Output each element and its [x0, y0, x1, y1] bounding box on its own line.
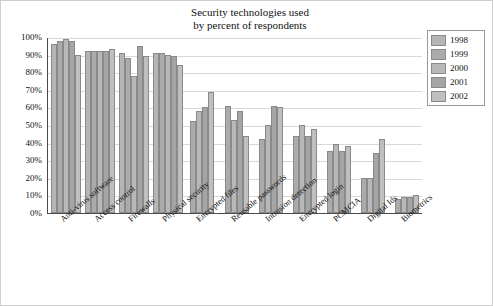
legend-swatch-icon [431, 49, 446, 60]
y-axis-tick-label: 20% [8, 174, 42, 183]
bar-2002-0 [75, 55, 81, 213]
legend-swatch-icon [431, 91, 446, 102]
x-axis-category-labels: Anti-virus softwareAccess controlFirewal… [47, 216, 422, 302]
y-axis-tick-label: 40% [8, 139, 42, 148]
bar-group [153, 38, 183, 213]
y-axis-tick-label: 70% [8, 86, 42, 95]
legend-item: 1999 [431, 47, 481, 61]
bar-2002-6 [277, 107, 283, 213]
bar-2002-1 [109, 49, 115, 213]
y-axis-tick-label: 50% [8, 121, 42, 130]
y-axis-tick-label: 30% [8, 156, 42, 165]
bar-group [119, 38, 149, 213]
legend-label: 2000 [450, 64, 468, 73]
legend-item: 2000 [431, 61, 481, 75]
bar-2002-2 [143, 56, 149, 213]
chart-figure: Security technologies used by percent of… [0, 0, 493, 306]
legend-label: 1998 [450, 36, 468, 45]
legend-label: 1999 [450, 50, 468, 59]
legend: 19981999200020012002 [427, 30, 485, 106]
legend-label: 2001 [450, 78, 468, 87]
y-axis-tick-label: 60% [8, 103, 42, 112]
bar-group [361, 38, 385, 213]
y-axis-tick-label: 90% [8, 51, 42, 60]
chart-title: Security technologies used by percent of… [120, 6, 380, 32]
chart-title-line-2: by percent of respondents [120, 19, 380, 32]
legend-swatch-icon [431, 63, 446, 74]
legend-item: 1998 [431, 33, 481, 47]
y-axis-tick-label: 80% [8, 68, 42, 77]
y-axis-tick-label: 0% [8, 209, 42, 218]
bar-group [395, 38, 419, 213]
legend-item: 2002 [431, 89, 481, 103]
legend-label: 2002 [450, 92, 468, 101]
bar-2002-3 [177, 65, 183, 213]
chart-title-line-1: Security technologies used [120, 6, 380, 19]
y-axis-tick-label: 100% [8, 33, 42, 42]
legend-swatch-icon [431, 35, 446, 46]
y-axis-tick-label: 10% [8, 191, 42, 200]
legend-swatch-icon [431, 77, 446, 88]
bar-2002-4 [208, 92, 214, 213]
legend-item: 2001 [431, 75, 481, 89]
bar-group [51, 38, 81, 213]
